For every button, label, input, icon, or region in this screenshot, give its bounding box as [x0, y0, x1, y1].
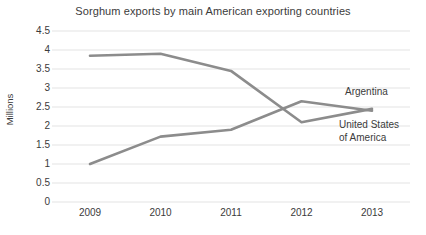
x-axis-tick-label: 2012	[272, 207, 332, 219]
x-axis-tick-label: 2010	[131, 207, 191, 219]
x-axis-tick-label: 2011	[201, 207, 261, 219]
chart-container: Sorghum exports by main American exporti…	[0, 0, 426, 235]
x-axis-tick-label: 2009	[60, 207, 120, 219]
gridlines	[52, 31, 410, 202]
series-label-argentina-line1: Argentina	[345, 86, 388, 99]
series-label-usa-line2: of America	[339, 132, 399, 145]
x-axis-tick-label: 2013	[342, 207, 402, 219]
series-line	[90, 101, 372, 164]
series-label-united-states: United States of America	[339, 119, 399, 144]
series-label-usa-line1: United States	[339, 119, 399, 132]
series-label-argentina: Argentina	[345, 86, 388, 99]
plot-area	[0, 0, 426, 235]
series-lines	[90, 54, 372, 164]
